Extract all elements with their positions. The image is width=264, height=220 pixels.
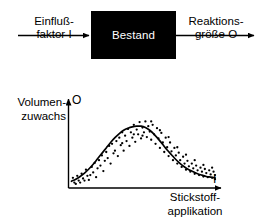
scatter-point <box>159 147 161 149</box>
scatter-point <box>140 137 142 139</box>
scatter-point <box>112 152 114 154</box>
scatter-point <box>163 151 165 153</box>
scatter-point <box>205 172 207 174</box>
scatter-point <box>136 128 138 130</box>
scatter-point <box>144 120 146 122</box>
scatter-point <box>105 151 107 153</box>
scatter-point <box>137 133 139 135</box>
scatter-point <box>192 167 194 169</box>
scatter-point <box>124 135 126 137</box>
scatter-point <box>150 139 152 141</box>
scatter-point <box>195 164 197 166</box>
scatter-point <box>201 171 203 173</box>
scatter-point <box>191 162 193 164</box>
scatter-point <box>128 145 130 147</box>
scatter-point <box>186 160 188 162</box>
scatter-point <box>78 179 80 181</box>
scatter-point <box>118 137 120 139</box>
scatter-point <box>154 143 156 145</box>
x-axis-symbol: I <box>213 172 216 186</box>
scatter-point <box>160 132 162 134</box>
scatter-point <box>82 177 84 179</box>
scatter-point <box>202 164 204 166</box>
scatter-point <box>76 175 78 177</box>
scatter-point <box>98 159 100 161</box>
scatter-point <box>96 167 98 169</box>
scatter-point <box>172 159 174 161</box>
scatter-point <box>175 154 177 156</box>
scatter-point <box>169 141 171 143</box>
y-axis-label-line1: Volumen- <box>17 96 66 108</box>
scatter-point <box>83 179 85 181</box>
scatter-point <box>75 183 77 185</box>
scatter-point <box>104 160 106 162</box>
scatter-point <box>138 121 140 123</box>
scatter-point <box>99 164 101 166</box>
scatter-point <box>208 169 210 171</box>
scatter-point <box>89 174 91 176</box>
scatter-point <box>194 159 196 161</box>
scatter-point <box>188 165 190 167</box>
scatter-point <box>146 136 148 138</box>
scatter-point <box>121 142 123 144</box>
scatter-point <box>107 157 109 159</box>
scatter-point <box>210 173 212 175</box>
scatter-point <box>156 127 158 129</box>
scatter-point <box>211 166 213 168</box>
scatter-point <box>111 143 113 145</box>
scatter-points-layer <box>72 120 216 185</box>
figure-canvas: Einfluß- faktor I Bestand Reaktions- grö… <box>0 0 264 220</box>
scatter-point <box>185 154 187 156</box>
scatter-point <box>141 135 143 137</box>
scatter-point <box>130 131 132 133</box>
scatter-point <box>178 152 180 154</box>
scatter-point <box>147 125 149 127</box>
scatter-point <box>117 155 119 157</box>
scatter-point <box>88 179 90 181</box>
scatter-point <box>92 171 94 173</box>
x-axis-label-line2: applikation <box>168 205 223 217</box>
scatter-point <box>79 181 81 183</box>
scatter-point <box>143 131 145 133</box>
y-axis-symbol: O <box>72 93 81 107</box>
scatter-point <box>159 129 161 131</box>
scatter-point <box>204 168 206 170</box>
scatter-point <box>170 150 172 152</box>
scatter-point <box>196 169 198 171</box>
scatter-point <box>125 140 127 142</box>
scatter-point <box>179 159 181 161</box>
scatter-point <box>167 136 169 138</box>
scatter-point <box>109 162 111 164</box>
y-axis-label: Volumen- zuwachs <box>8 95 66 123</box>
x-axis-label: Stickstoff- applikation <box>140 190 250 218</box>
scatter-point <box>134 141 136 143</box>
scatter-point <box>199 166 201 168</box>
scatter-point <box>102 170 104 172</box>
scatter-point <box>176 146 178 148</box>
scatter-point <box>72 177 74 179</box>
y-axis-label-line2: zuwachs <box>8 109 66 123</box>
scatter-point <box>123 149 125 151</box>
scatter-point <box>173 147 175 149</box>
x-axis-label-line1: Stickstoff- <box>170 191 220 203</box>
scatter-point <box>95 176 97 178</box>
scatter-point <box>167 155 169 157</box>
scatter-point <box>120 144 122 146</box>
scatter-point <box>150 120 152 122</box>
scatter-point <box>86 175 88 177</box>
scatter-point <box>115 140 117 142</box>
scatter-point <box>165 137 167 139</box>
scatter-point <box>182 156 184 158</box>
scatter-point <box>133 133 135 135</box>
scatter-point <box>114 149 116 151</box>
scatter-point <box>152 124 154 126</box>
scatter-point <box>183 162 185 164</box>
scatter-point <box>131 137 133 139</box>
